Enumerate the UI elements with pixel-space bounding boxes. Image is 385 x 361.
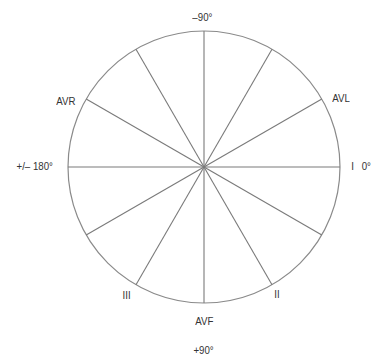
spoke-150 <box>86 167 204 235</box>
label-avr: AVR <box>56 96 75 107</box>
label-lead-ii: II <box>274 289 279 300</box>
label-minus-90: –90° <box>192 12 212 23</box>
spoke-240 <box>136 49 204 167</box>
spoke-120 <box>136 167 204 285</box>
label-avf: AVF <box>195 316 213 327</box>
spoke-210 <box>86 99 204 167</box>
label-lead-iii: III <box>123 290 131 301</box>
label-avl: AVL <box>332 93 350 104</box>
label-0-degrees: 0° <box>362 161 371 172</box>
spoke-330 <box>204 99 322 167</box>
spoke-30 <box>204 167 322 235</box>
spoke-300 <box>204 49 272 167</box>
label-plus-minus-180: +/– 180° <box>16 161 52 172</box>
hexaxial-diagram <box>0 0 385 361</box>
spoke-60 <box>204 167 272 285</box>
label-lead-i: I <box>351 161 354 172</box>
label-plus-90: +90° <box>193 345 213 356</box>
axis-spokes <box>68 31 340 303</box>
